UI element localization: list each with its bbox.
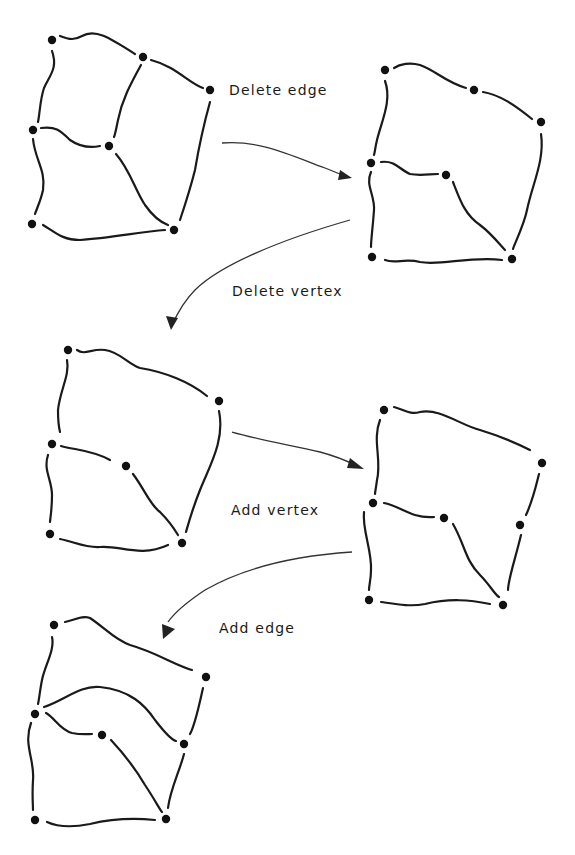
graph-edge — [41, 128, 100, 147]
graph-edge — [43, 225, 165, 240]
graph-edge — [44, 687, 176, 741]
graph-edge — [38, 51, 54, 122]
graph-vertex — [380, 406, 388, 414]
graph-edge — [77, 350, 207, 396]
graph-vertex — [50, 621, 58, 629]
arrowhead-icon — [347, 458, 364, 469]
arrow-delete-vertex — [166, 220, 350, 330]
graph-edge — [28, 723, 33, 810]
graph-edge — [114, 65, 141, 137]
arrow-shaft — [168, 552, 352, 622]
graph-vertex — [470, 86, 478, 94]
graph-edge — [186, 411, 220, 532]
arrowhead-icon — [166, 316, 178, 330]
graph-vertex — [122, 462, 130, 470]
graph-vertex — [367, 159, 375, 167]
graph-vertex — [508, 255, 516, 263]
graph-edge — [47, 819, 155, 827]
graph-vertex — [537, 118, 545, 126]
arrowhead-icon — [338, 170, 352, 180]
graph-edge — [369, 172, 374, 247]
arrow-delete-edge — [222, 143, 352, 180]
graph-edge — [483, 92, 532, 119]
graph-3-vertex-deleted — [46, 346, 223, 551]
graph-vertex — [170, 226, 178, 234]
graph-edge — [46, 713, 92, 734]
label-delete-vertex: Delete vertex — [232, 283, 343, 299]
graph-vertex — [48, 440, 56, 448]
graph-vertex — [381, 66, 389, 74]
graph-edge — [46, 455, 52, 522]
graph-edge — [374, 81, 387, 155]
graph-vertex — [206, 86, 214, 94]
graph-edge — [513, 134, 542, 249]
graph-edge — [151, 60, 203, 88]
graph-4-vertex-added — [364, 406, 546, 609]
graph-edge — [526, 474, 539, 515]
arrow-shaft — [232, 432, 355, 465]
graph-edge — [180, 102, 210, 220]
graph-vertex — [105, 142, 113, 150]
graph-2-edge-deleted — [367, 64, 545, 264]
graph-edge — [111, 740, 162, 812]
graph-vertex — [139, 53, 147, 61]
graph-vertex — [46, 530, 54, 538]
label-add-edge: Add edge — [219, 620, 295, 636]
graph-edge — [116, 154, 168, 225]
graph-vertex — [215, 397, 223, 405]
graph-vertex — [202, 673, 210, 681]
graph-vertex — [31, 816, 39, 824]
graph-edge — [508, 535, 521, 590]
label-add-vertex: Add vertex — [231, 502, 319, 518]
graph-edge — [58, 360, 68, 432]
graph-vertex — [442, 171, 450, 179]
graph-edge — [384, 503, 434, 517]
graph-vertex — [365, 596, 373, 604]
graph-edge — [453, 182, 505, 250]
graph-5-edge-added — [28, 617, 210, 826]
graph-vertex — [162, 815, 170, 823]
graph-1-original — [28, 33, 214, 240]
arrow-shaft — [172, 220, 350, 325]
graph-vertex — [178, 539, 186, 547]
graph-edge — [394, 64, 466, 88]
graph-vertex — [440, 514, 448, 522]
label-delete-edge: Delete edge — [229, 82, 328, 98]
graph-vertex — [29, 126, 37, 134]
graph-edge — [65, 617, 192, 670]
graph-edge — [385, 259, 502, 263]
graph-vertex — [48, 36, 56, 44]
graph-vertex — [369, 499, 377, 507]
graph-vertex — [31, 710, 39, 718]
graph-vertex — [180, 740, 188, 748]
graph-edge — [190, 688, 203, 734]
graph-vertex — [98, 731, 106, 739]
graph-vertex — [368, 253, 376, 261]
arrows-layer — [162, 143, 364, 639]
graph-edge — [61, 446, 110, 460]
graph-vertex — [538, 459, 546, 467]
graph-operations-diagram — [0, 0, 575, 855]
graph-edge — [60, 539, 168, 551]
graph-edge — [381, 600, 490, 605]
graph-edge — [364, 512, 371, 590]
arrow-add-vertex — [232, 432, 364, 469]
graph-edge — [453, 524, 499, 597]
graph-vertex — [28, 220, 36, 228]
graph-edge — [168, 754, 184, 808]
graph-edge — [38, 637, 53, 704]
graphs-layer — [28, 33, 546, 826]
arrowhead-icon — [162, 624, 175, 639]
arrow-shaft — [222, 143, 348, 177]
graph-edge — [133, 474, 178, 535]
graph-vertex — [516, 521, 524, 529]
graph-edge — [394, 407, 530, 450]
graph-vertex — [499, 601, 507, 609]
graph-vertex — [64, 346, 72, 354]
graph-edge — [381, 162, 438, 175]
graph-edge — [375, 420, 380, 494]
graph-edge — [33, 139, 44, 214]
graph-edge — [60, 33, 135, 54]
